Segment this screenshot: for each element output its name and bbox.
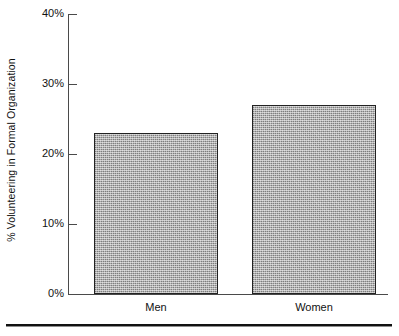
footer-rule-shadow: [6, 326, 392, 327]
y-axis-tick-label: 40%: [4, 8, 64, 19]
y-axis-tick: [69, 14, 77, 15]
bar-chart: % Volunteering in Formal Organization 40…: [0, 0, 399, 336]
y-axis-tick-label: 20%: [4, 148, 64, 159]
y-axis-tick: [69, 84, 77, 85]
bar-women[interactable]: [252, 105, 376, 294]
category-label-men: Men: [94, 300, 218, 314]
y-axis-tick-label: 30%: [4, 78, 64, 89]
y-axis-tick-label: 10%: [4, 218, 64, 229]
category-label-women: Women: [252, 300, 376, 314]
bar-men[interactable]: [94, 133, 218, 294]
y-axis-tick: [69, 294, 77, 295]
y-axis-tick-label: 0%: [4, 288, 64, 299]
y-axis-tick: [69, 154, 77, 155]
x-axis-line: [68, 294, 388, 295]
y-axis-tick: [69, 224, 77, 225]
